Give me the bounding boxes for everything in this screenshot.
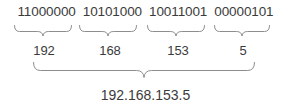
decimal-octet-2: 168	[99, 43, 121, 58]
brace-octet-3	[148, 26, 205, 37]
binary-octet-3: 10011001	[146, 4, 211, 19]
decimal-octet-4: 5	[239, 43, 246, 58]
binary-octet-4: 00000101	[211, 4, 277, 19]
binary-octets-row: 11000000 10101000 10011001 00000101	[0, 4, 291, 19]
decimal-octets-row: 192 168 153 5	[0, 43, 291, 59]
ip-address-row: 192.168.153.5	[0, 86, 291, 104]
decimal-octet-1: 192	[33, 43, 55, 58]
ip-address-breakdown-diagram: 11000000 10101000 10011001 00000101 192 …	[0, 0, 291, 107]
brace-octet-2	[80, 26, 137, 37]
decimal-octet-3: 153	[167, 43, 189, 58]
brace-octet-1	[15, 26, 72, 37]
brace-octet-4	[215, 26, 270, 37]
ip-address-label: 192.168.153.5	[101, 87, 191, 103]
binary-octet-1: 11000000	[14, 4, 79, 19]
binary-octet-2: 10101000	[79, 4, 145, 19]
brace-full-address	[34, 63, 255, 78]
